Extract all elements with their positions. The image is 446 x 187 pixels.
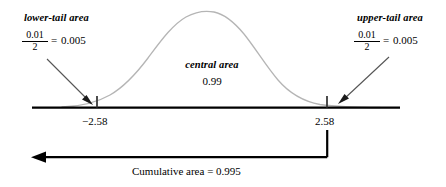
tick-label-positive-2-58: 2.58 — [315, 115, 334, 127]
cumulative-area-bracket — [31, 130, 327, 163]
lower-tail-fraction: 0.01 2 — [22, 30, 48, 52]
upper-tail-fraction-numerator: 0.01 — [354, 30, 380, 42]
central-area-label: central area — [152, 59, 272, 70]
lower-tail-area-label: lower-tail area — [24, 12, 89, 23]
upper-tail-area-value: 0.005 — [393, 34, 418, 46]
upper-tail-fraction: 0.01 2 — [354, 30, 380, 52]
central-area-value: 0.99 — [152, 76, 272, 88]
upper-tail-pointer-arrow — [338, 57, 389, 104]
lower-tail-equals-sign: = — [51, 34, 57, 46]
lower-tail-area-value: 0.005 — [61, 34, 86, 46]
cumulative-area-caption: Cumulative area = 0.995 — [132, 166, 241, 178]
lower-tail-fraction-numerator: 0.01 — [22, 30, 48, 42]
lower-tail-pointer-arrow — [47, 59, 93, 105]
upper-tail-fraction-denominator: 2 — [354, 42, 380, 53]
lower-tail-fraction-denominator: 2 — [22, 42, 48, 53]
tick-label-negative-2-58: −2.58 — [82, 115, 107, 127]
upper-tail-equals-sign: = — [383, 34, 389, 46]
upper-tail-area-label: upper-tail area — [357, 12, 423, 23]
statistics-figure: lower-tail area 0.01 2 = 0.005 upper-tai… — [0, 0, 446, 187]
distribution-plot-svg — [0, 0, 446, 187]
